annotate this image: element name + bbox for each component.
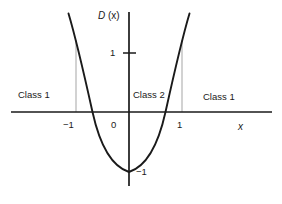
x-tick-label-0: 0 [111,120,116,130]
y-tick-label-1: 1 [110,48,115,58]
x-tick-label-1: 1 [177,120,182,130]
figure-container: D (x) 1 −1 0 1 −1 x Class 1 Class 2 Clas… [0,0,282,204]
x-tick-label-neg1: −1 [63,120,74,130]
y-axis-label-arg: (x) [105,10,119,21]
y-axis-label: D (x) [98,11,120,21]
vertex-label-neg1: −1 [136,167,147,177]
x-axis-label: x [238,122,243,132]
region-label-class-1-left: Class 1 [18,90,50,100]
region-label-class-2: Class 2 [133,90,165,100]
region-label-class-1-right: Class 1 [203,92,235,102]
